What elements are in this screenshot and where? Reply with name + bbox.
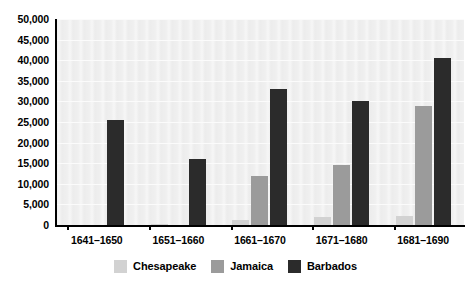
x-category-label: 1651–1660 bbox=[138, 234, 220, 246]
x-axis-tick bbox=[67, 225, 69, 230]
legend-swatch-icon bbox=[211, 260, 224, 273]
bar-chart: 50,00045,00040,00035,00030,00025,00020,0… bbox=[0, 0, 471, 289]
x-category-label: 1641–1650 bbox=[56, 234, 138, 246]
y-axis-line bbox=[55, 19, 57, 227]
bar-barbados-1661–1670 bbox=[270, 89, 287, 225]
x-category-label: 1671–1680 bbox=[301, 234, 383, 246]
bar-barbados-1671–1680 bbox=[352, 101, 369, 225]
y-tick-label: 0 bbox=[43, 220, 49, 230]
y-axis: 50,00045,00040,00035,00030,00025,00020,0… bbox=[0, 0, 56, 235]
x-category-label: 1681–1690 bbox=[382, 234, 464, 246]
bar-jamaica-1681–1690 bbox=[415, 106, 432, 225]
bar-group bbox=[56, 19, 138, 225]
bar-group bbox=[219, 19, 301, 225]
x-axis-tick bbox=[394, 225, 396, 230]
legend-item-barbados[interactable]: Barbados bbox=[288, 260, 357, 273]
legend-item-jamaica[interactable]: Jamaica bbox=[211, 260, 273, 273]
bar-group bbox=[382, 19, 464, 225]
legend-item-chesapeake[interactable]: Chesapeake bbox=[114, 260, 196, 273]
y-tick-label: 15,000 bbox=[17, 158, 49, 168]
y-tick-label: 35,000 bbox=[17, 76, 49, 86]
chart-legend: ChesapeakeJamaicaBarbados bbox=[0, 256, 471, 276]
legend-swatch-icon bbox=[288, 260, 301, 273]
x-axis-tick bbox=[149, 225, 151, 230]
x-axis-tick bbox=[231, 225, 233, 230]
y-tick-label: 20,000 bbox=[17, 138, 49, 148]
y-tick-label: 45,000 bbox=[17, 35, 49, 45]
bar-chesapeake-1681–1690 bbox=[396, 216, 413, 225]
legend-swatch-icon bbox=[114, 260, 127, 273]
legend-label: Barbados bbox=[307, 260, 357, 272]
y-tick-label: 50,000 bbox=[17, 14, 49, 24]
bar-jamaica-1661–1670 bbox=[251, 176, 268, 225]
bar-jamaica-1671–1680 bbox=[333, 165, 350, 225]
bars-layer bbox=[56, 19, 464, 225]
x-axis-line bbox=[56, 225, 465, 227]
bar-group bbox=[138, 19, 220, 225]
y-tick-label: 10,000 bbox=[17, 179, 49, 189]
x-axis-tick bbox=[312, 225, 314, 230]
bar-group bbox=[301, 19, 383, 225]
y-tick-label: 5,000 bbox=[23, 199, 49, 209]
legend-label: Jamaica bbox=[230, 260, 273, 272]
x-category-label: 1661–1670 bbox=[219, 234, 301, 246]
y-tick-label: 30,000 bbox=[17, 96, 49, 106]
bar-chesapeake-1671–1680 bbox=[314, 217, 331, 225]
bar-barbados-1681–1690 bbox=[434, 58, 451, 225]
bar-barbados-1651–1660 bbox=[189, 159, 206, 225]
y-tick-label: 25,000 bbox=[17, 117, 49, 127]
y-tick-label: 40,000 bbox=[17, 55, 49, 65]
bar-barbados-1641–1650 bbox=[107, 120, 124, 225]
legend-label: Chesapeake bbox=[133, 260, 196, 272]
x-axis-labels: 1641–16501651–16601661–16701671–16801681… bbox=[56, 234, 465, 250]
